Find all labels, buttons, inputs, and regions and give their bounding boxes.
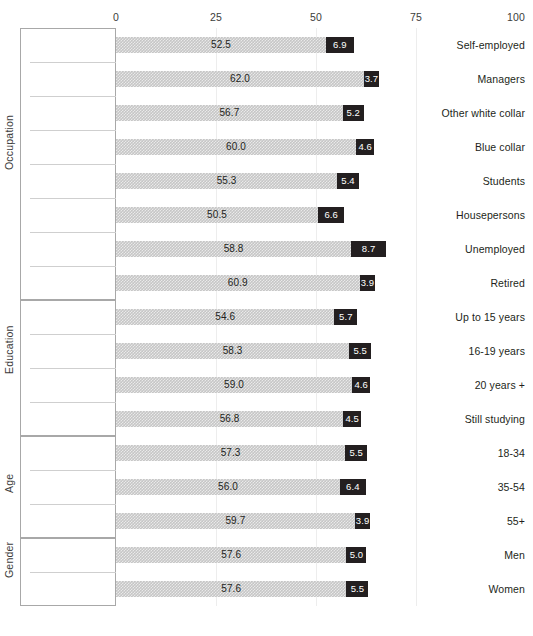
bar-value-main: 58.8 [224,241,244,257]
bar-value-accent: 4.6 [354,377,368,393]
stacked-bar-chart: 0255075100 Self-employedManagersOther wh… [0,0,533,636]
row-divider [30,96,116,97]
category-label-unemployed[interactable]: Unemployed [437,243,533,255]
bar-value-main: 59.7 [225,513,245,529]
bar-value-main: 56.7 [219,105,239,121]
group-title-gender: Gender [0,563,18,581]
group-title-education: Education [0,359,18,377]
row-divider [30,470,116,471]
group-box-age [20,436,116,538]
bar-value-accent: 5.5 [351,581,365,597]
row-divider [30,572,116,573]
row-divider [30,402,116,403]
bar-value-accent: 5.7 [339,309,353,325]
row-divider [30,504,116,505]
bar-value-main: 57.6 [221,581,241,597]
category-label-blue-collar[interactable]: Blue collar [437,141,533,153]
bar-value-accent: 8.7 [362,241,376,257]
category-label-housepersons[interactable]: Housepersons [437,209,533,221]
bar-value-main: 50.5 [207,207,227,223]
category-label-managers[interactable]: Managers [437,73,533,85]
category-label-other-white-collar[interactable]: Other white collar [437,107,533,119]
category-label-retired[interactable]: Retired [437,277,533,289]
x-axis-tick-75: 75 [410,11,422,23]
bar-value-main: 57.3 [221,445,241,461]
category-label-men[interactable]: Men [437,549,533,561]
bar-value-accent: 3.9 [361,275,375,291]
row-divider [30,62,116,63]
category-label-still-studying[interactable]: Still studying [437,413,533,425]
bar-value-accent: 4.6 [358,139,372,155]
category-label-20-years[interactable]: 20 years + [437,379,533,391]
bar-value-accent: 3.9 [356,513,370,529]
bar-value-main: 52.5 [211,37,231,53]
bar-value-main: 57.6 [221,547,241,563]
category-label-self-employed[interactable]: Self-employed [437,39,533,51]
bar-value-accent: 6.4 [346,479,360,495]
x-axis-tick-0: 0 [113,11,119,23]
x-axis-tick-25: 25 [210,11,222,23]
bar-value-main: 59.0 [224,377,244,393]
group-title-label: Gender [3,560,15,578]
bar-value-accent: 5.4 [341,173,355,189]
bar-value-accent: 5.2 [346,105,360,121]
bar-value-accent: 6.9 [333,37,347,53]
gridline-75 [416,28,417,606]
category-label-up-to-15-years[interactable]: Up to 15 years [437,311,533,323]
bar-value-main: 60.9 [228,275,248,291]
x-axis-tick-50: 50 [310,11,322,23]
bar-value-accent: 5.5 [353,343,367,359]
row-divider [30,368,116,369]
bar-value-main: 56.0 [218,479,238,495]
group-title-label: Education [3,356,15,374]
bar-value-accent: 4.5 [345,411,359,427]
bar-value-accent: 3.7 [365,71,379,87]
bar-value-accent: 5.0 [350,547,364,563]
category-label-students[interactable]: Students [437,175,533,187]
row-divider [30,164,116,165]
group-title-label: Age [3,475,15,493]
bar-value-main: 58.3 [223,343,243,359]
category-label-women[interactable]: Women [437,583,533,595]
bar-value-accent: 5.5 [349,445,363,461]
row-divider [30,266,116,267]
row-divider [30,130,116,131]
group-title-label: Occupation [3,152,15,170]
row-divider [30,334,116,335]
bar-value-main: 62.0 [230,71,250,87]
category-label-35-54[interactable]: 35-54 [437,481,533,493]
row-divider [30,232,116,233]
bar-value-main: 60.0 [226,139,246,155]
bar-value-main: 54.6 [215,309,235,325]
category-label-18-34[interactable]: 18-34 [437,447,533,459]
group-title-occupation: Occupation [0,155,18,173]
x-axis-tick-100: 100 [507,11,525,23]
category-label-55[interactable]: 55+ [437,515,533,527]
row-divider [30,198,116,199]
bar-value-main: 55.3 [217,173,237,189]
category-label-16-19-years[interactable]: 16-19 years [437,345,533,357]
bar-value-accent: 6.6 [324,207,338,223]
group-title-age: Age [0,478,18,496]
bar-value-main: 56.8 [220,411,240,427]
